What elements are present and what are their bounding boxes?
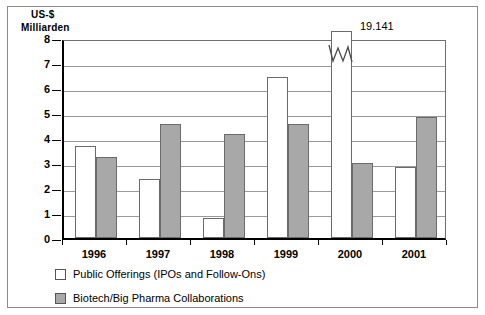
y-tick-mark-2 bbox=[52, 190, 61, 191]
gridline-7 bbox=[64, 66, 445, 67]
bar-2000-series-1 bbox=[331, 31, 352, 238]
bar-2001-series-1 bbox=[395, 167, 416, 238]
y-tick-label-0: 0 bbox=[28, 234, 50, 245]
legend-swatch-collaborations bbox=[55, 293, 66, 304]
chart-figure: US-$ Milliarden 012345678 19961997199819… bbox=[0, 0, 485, 315]
legend-swatch-public-offerings bbox=[55, 269, 66, 280]
y-tick-label-6: 6 bbox=[28, 84, 50, 95]
gridline-3 bbox=[64, 166, 445, 167]
y-axis-title-line-2: Milliarden bbox=[21, 22, 70, 33]
y-tick-mark-3 bbox=[52, 165, 61, 166]
gridline-5 bbox=[64, 116, 445, 117]
y-tick-mark-5 bbox=[52, 115, 61, 116]
x-tick-label-1997: 1997 bbox=[134, 248, 182, 260]
y-tick-label-5: 5 bbox=[28, 109, 50, 120]
x-tick-mark-1999 bbox=[254, 240, 255, 245]
y-tick-label-4: 4 bbox=[28, 134, 50, 145]
bar-1996-series-1 bbox=[75, 146, 96, 239]
x-tick-mark-1997 bbox=[126, 240, 127, 245]
y-tick-label-7: 7 bbox=[28, 59, 50, 70]
x-tick-label-2000: 2000 bbox=[326, 248, 374, 260]
bar-1998-series-1 bbox=[203, 218, 224, 238]
gridline-4 bbox=[64, 141, 445, 142]
bar-2001-series-2 bbox=[416, 117, 437, 238]
bar-1996-series-2 bbox=[96, 157, 117, 238]
y-tick-label-8: 8 bbox=[28, 34, 50, 45]
x-tick-mark-2001 bbox=[382, 240, 383, 245]
bar-2000-series-2 bbox=[352, 163, 373, 238]
x-tick-label-1996: 1996 bbox=[70, 248, 118, 260]
x-tick-label-1998: 1998 bbox=[198, 248, 246, 260]
legend-item-public-offerings: Public Offerings (IPOs and Follow-Ons) bbox=[55, 268, 265, 280]
y-tick-mark-6 bbox=[52, 90, 61, 91]
x-tick-mark-2000 bbox=[318, 240, 319, 245]
x-tick-mark-1998 bbox=[190, 240, 191, 245]
plot-area bbox=[62, 40, 446, 240]
legend-label-public-offerings: Public Offerings (IPOs and Follow-Ons) bbox=[73, 268, 265, 280]
y-tick-label-3: 3 bbox=[28, 159, 50, 170]
gridline-6 bbox=[64, 91, 445, 92]
y-tick-mark-1 bbox=[52, 215, 61, 216]
bar-1999-series-2 bbox=[288, 124, 309, 238]
bar-value-label-2000: 19.141 bbox=[360, 20, 394, 32]
legend-label-collaborations: Biotech/Big Pharma Collaborations bbox=[73, 292, 244, 304]
legend-item-collaborations: Biotech/Big Pharma Collaborations bbox=[55, 292, 244, 304]
y-tick-label-1: 1 bbox=[28, 209, 50, 220]
y-tick-mark-8 bbox=[52, 40, 61, 41]
x-tick-label-2001: 2001 bbox=[390, 248, 438, 260]
y-tick-mark-7 bbox=[52, 65, 61, 66]
x-tick-mark-1996 bbox=[62, 240, 63, 245]
bar-1997-series-2 bbox=[160, 124, 181, 238]
gridline-2 bbox=[64, 191, 445, 192]
bar-1999-series-1 bbox=[267, 77, 288, 238]
bar-1998-series-2 bbox=[224, 134, 245, 238]
x-tick-label-1999: 1999 bbox=[262, 248, 310, 260]
y-tick-mark-4 bbox=[52, 140, 61, 141]
bar-1997-series-1 bbox=[139, 179, 160, 238]
x-tick-mark-end bbox=[446, 240, 447, 245]
y-axis-title-line-1: US-$ bbox=[31, 9, 55, 20]
y-tick-mark-0 bbox=[52, 240, 61, 241]
gridline-1 bbox=[64, 216, 445, 217]
y-tick-label-2: 2 bbox=[28, 184, 50, 195]
